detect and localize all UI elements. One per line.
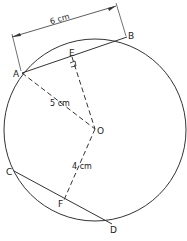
arrowhead-right — [108, 6, 116, 11]
extension-line-a — [12, 34, 21, 71]
chord-cd — [14, 171, 112, 224]
circle-diagram: 6 cm 5 cm 4 cm A B E O C F D — [0, 0, 187, 241]
point-d-label: D — [110, 225, 117, 235]
point-b-label: B — [128, 31, 134, 41]
point-a-label: A — [13, 69, 20, 79]
label-oa-length: 5 cm — [50, 99, 70, 108]
point-f-label: F — [58, 199, 63, 209]
right-angle-marker — [70, 61, 76, 67]
extension-line-b — [116, 3, 126, 36]
label-of-length: 4 cm — [72, 162, 92, 171]
arrowhead-left — [12, 33, 21, 37]
label-ab-length: 6 cm — [49, 12, 71, 26]
point-c-label: C — [6, 167, 12, 177]
point-o-label: O — [97, 126, 104, 136]
point-e-label: E — [69, 48, 75, 58]
segment-oe — [72, 57, 95, 129]
